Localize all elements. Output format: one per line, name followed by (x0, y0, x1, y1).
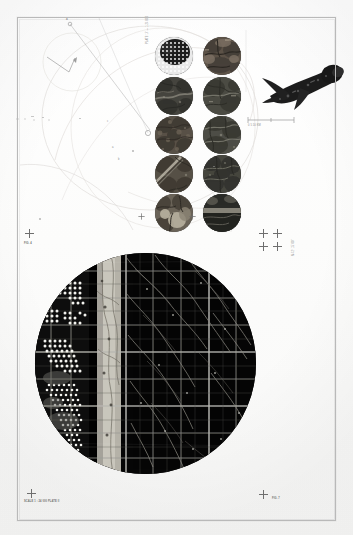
plate-page: PLATE 17 — 1:24 000 N 42° 15' 00" FIG. 4… (0, 0, 353, 535)
page-border-frame (17, 17, 336, 521)
